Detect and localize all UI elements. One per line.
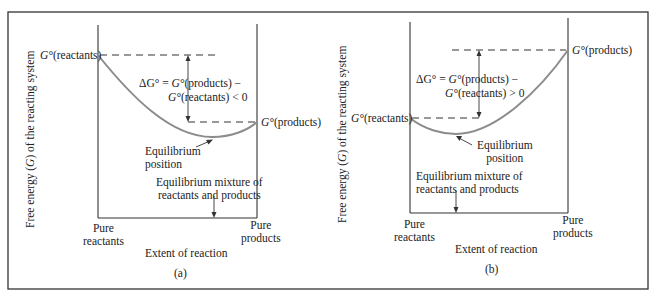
- panel-b-pure-products-label: Pureproducts: [553, 214, 593, 240]
- panel-a-delta-g-line1: ΔG° = G°(products) −: [139, 77, 241, 90]
- diagram-canvas: [0, 0, 651, 299]
- panel-a-mixture-label: Equilibrium mixture ofreactants and prod…: [156, 176, 263, 202]
- panel-b-equilibrium-position-label: Equilibriumposition: [477, 139, 533, 165]
- panel-a-pure-products-label: Pureproducts: [241, 219, 281, 245]
- panel-b-caption: (b): [485, 263, 498, 276]
- panel-a-x-axis-label: Extent of reaction: [145, 247, 227, 260]
- panel-a-equilibrium-position-label: Equilibriumposition: [145, 145, 201, 171]
- panel-a-y-axis-label: Free energy (G) of the reacting system: [24, 51, 36, 228]
- panel-b-mixture-label: Equilibrium mixture ofreactants and prod…: [416, 170, 523, 196]
- panel-b-equilibrium-pointer: [459, 138, 472, 145]
- panel-a-delta-g-line2: G°(reactants) < 0: [168, 91, 247, 104]
- panel-b-g-reactants-label: G°(reactants): [351, 112, 412, 125]
- panel-b-delta-g-line2: G°(reactants) > 0: [445, 87, 524, 100]
- panel-b-g-products-label: G°(products): [572, 44, 632, 57]
- panel-b-y-axis-label: Free energy (G) of the reacting system: [336, 46, 348, 223]
- panel-b-x-axis-label: Extent of reaction: [455, 243, 537, 256]
- panel-a-pure-reactants-label: Purereactants: [83, 222, 124, 248]
- panel-b-delta-g-line1: ΔG° = G°(products) −: [416, 73, 518, 86]
- panel-b-pure-reactants-label: Purereactants: [394, 218, 435, 244]
- panel-a-caption: (a): [174, 267, 187, 280]
- panel-a-g-reactants-label: G°(reactants): [40, 49, 101, 62]
- panel-a-g-products-label: G°(products): [261, 116, 321, 129]
